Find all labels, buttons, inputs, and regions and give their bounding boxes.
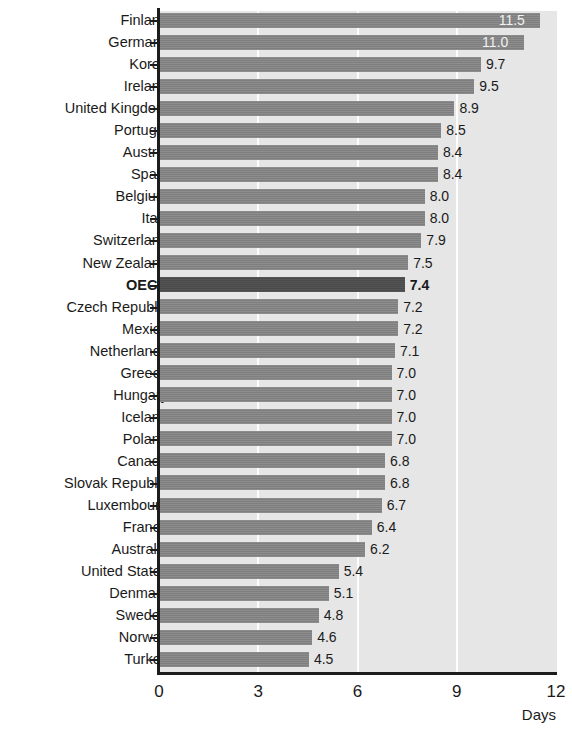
bar-row: Switzerland7.9 bbox=[0, 231, 572, 253]
bar-row: Slovak Republic6.8 bbox=[0, 474, 572, 496]
bar-value-label: 11.5 bbox=[499, 12, 525, 28]
bar-row: Poland7.0 bbox=[0, 430, 572, 452]
category-label: New Zealand bbox=[0, 255, 168, 272]
x-tick-label: 0 bbox=[129, 682, 189, 702]
y-axis-tick bbox=[150, 86, 159, 88]
category-label: Korea bbox=[0, 56, 168, 73]
y-axis-tick bbox=[150, 20, 159, 22]
x-tick-label: 9 bbox=[427, 682, 487, 702]
bar-value-label: 7.0 bbox=[397, 409, 416, 425]
y-axis-tick bbox=[150, 152, 159, 154]
bar-row: Iceland7.0 bbox=[0, 408, 572, 430]
bar bbox=[160, 431, 392, 446]
bar-value-label: 6.7 bbox=[387, 497, 406, 513]
bar-row: Denmark5.1 bbox=[0, 584, 572, 606]
y-axis-tick bbox=[150, 42, 159, 44]
bar-row: Czech Republic7.2 bbox=[0, 298, 572, 320]
bar-row: Finland11.5 bbox=[0, 11, 572, 33]
bar-value-label: 8.4 bbox=[443, 166, 462, 182]
bar-value-label: 7.9 bbox=[426, 232, 445, 248]
category-label: Canada bbox=[0, 453, 168, 470]
bar bbox=[160, 13, 540, 28]
bar bbox=[160, 35, 524, 50]
bar bbox=[160, 652, 309, 667]
bar-row: United Kingdom8.9 bbox=[0, 99, 572, 121]
bar-value-label: 4.8 bbox=[324, 607, 343, 623]
bar-value-label: 7.0 bbox=[397, 431, 416, 447]
y-axis-tick bbox=[150, 439, 159, 441]
category-label: France bbox=[0, 519, 168, 536]
category-label: United States bbox=[0, 563, 168, 580]
y-axis-tick bbox=[150, 417, 159, 419]
bar-row: Greece7.0 bbox=[0, 364, 572, 386]
bar-value-label: 8.0 bbox=[430, 210, 449, 226]
bar-row: Belgium8.0 bbox=[0, 187, 572, 209]
category-label: OECD bbox=[0, 277, 168, 294]
category-label: United Kingdom bbox=[0, 100, 168, 117]
x-tick-label: 6 bbox=[328, 682, 388, 702]
category-label: Germany bbox=[0, 34, 168, 51]
bar-row: Canada6.8 bbox=[0, 452, 572, 474]
bar bbox=[160, 233, 421, 248]
category-label: Switzerland bbox=[0, 232, 168, 249]
y-axis-tick bbox=[150, 505, 159, 507]
category-label: Denmark bbox=[0, 585, 168, 602]
bar bbox=[160, 453, 385, 468]
bar-value-label: 7.4 bbox=[410, 277, 429, 293]
category-label: Austria bbox=[0, 144, 168, 161]
bar-row: Spain8.4 bbox=[0, 165, 572, 187]
y-axis-tick bbox=[150, 196, 159, 198]
y-axis-tick bbox=[150, 637, 159, 639]
bar-row: Korea9.7 bbox=[0, 55, 572, 77]
bar-row: Netherlands7.1 bbox=[0, 342, 572, 364]
y-axis-tick bbox=[150, 549, 159, 551]
bar bbox=[160, 586, 329, 601]
bar-value-label: 6.2 bbox=[370, 541, 389, 557]
bar bbox=[160, 608, 319, 623]
bar-row: Mexico7.2 bbox=[0, 320, 572, 342]
bar-row: Norway4.6 bbox=[0, 628, 572, 650]
category-label: Portugal bbox=[0, 122, 168, 139]
bar-value-label: 8.5 bbox=[446, 122, 465, 138]
y-axis-tick bbox=[150, 64, 159, 66]
bar bbox=[160, 542, 365, 557]
bar bbox=[160, 321, 398, 336]
bar bbox=[160, 189, 425, 204]
y-axis-tick bbox=[150, 307, 159, 309]
bar-row: Austria8.4 bbox=[0, 143, 572, 165]
bar-row: France6.4 bbox=[0, 518, 572, 540]
bar bbox=[160, 387, 392, 402]
bar bbox=[160, 211, 425, 226]
bar-row: Turkey4.5 bbox=[0, 650, 572, 672]
bar-row: Luxembourg6.7 bbox=[0, 496, 572, 518]
y-axis-tick bbox=[150, 615, 159, 617]
x-axis-line bbox=[157, 672, 557, 675]
bar-row: Germany11.0 bbox=[0, 33, 572, 55]
bar-row: Italy8.0 bbox=[0, 209, 572, 231]
bar-value-label: 8.9 bbox=[459, 100, 478, 116]
y-axis-tick bbox=[150, 593, 159, 595]
y-axis-tick bbox=[150, 130, 159, 132]
bar-value-label: 8.0 bbox=[430, 188, 449, 204]
chart-title bbox=[0, 0, 572, 5]
bar-row: United States5.4 bbox=[0, 562, 572, 584]
y-axis-tick bbox=[150, 483, 159, 485]
bar-value-label: 7.0 bbox=[397, 365, 416, 381]
category-label: Sweden bbox=[0, 607, 168, 624]
bar bbox=[160, 475, 385, 490]
y-axis-tick bbox=[150, 108, 159, 110]
y-axis-tick bbox=[150, 218, 159, 220]
bar-value-label: 7.1 bbox=[400, 343, 419, 359]
bar-rows: Finland11.5Germany11.0Korea9.7Ireland9.5… bbox=[0, 11, 572, 672]
category-label: Greece bbox=[0, 365, 168, 382]
y-axis-tick bbox=[150, 329, 159, 331]
category-label: Iceland bbox=[0, 409, 168, 426]
bar bbox=[160, 520, 372, 535]
y-axis-tick bbox=[150, 285, 159, 287]
bar-value-label: 4.6 bbox=[317, 629, 336, 645]
bar bbox=[160, 255, 408, 270]
bar-value-label: 7.2 bbox=[403, 321, 422, 337]
bar bbox=[160, 299, 398, 314]
category-label: Finland bbox=[0, 12, 168, 29]
bar-row: Portugal8.5 bbox=[0, 121, 572, 143]
